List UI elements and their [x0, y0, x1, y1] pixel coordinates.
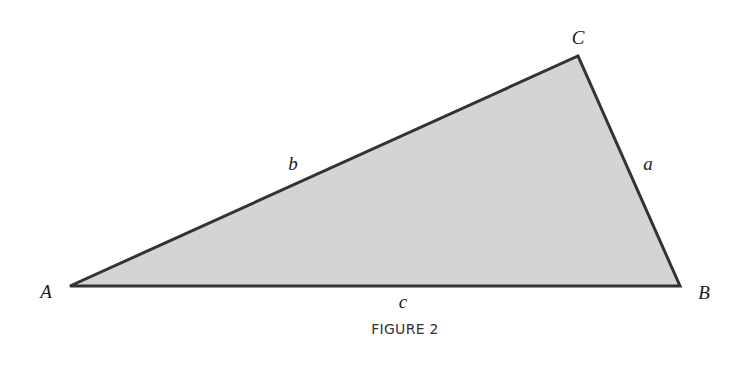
side-label-b: b	[288, 153, 298, 174]
vertex-label-b: B	[698, 282, 710, 303]
figure-caption: FIGURE 2	[371, 321, 439, 337]
vertex-label-c: C	[572, 27, 585, 48]
triangle-abc	[70, 56, 680, 286]
vertex-label-a: A	[38, 281, 52, 302]
side-label-c: c	[399, 291, 408, 312]
side-label-a: a	[643, 153, 653, 174]
triangle-figure: A B C a b c FIGURE 2	[0, 0, 743, 365]
